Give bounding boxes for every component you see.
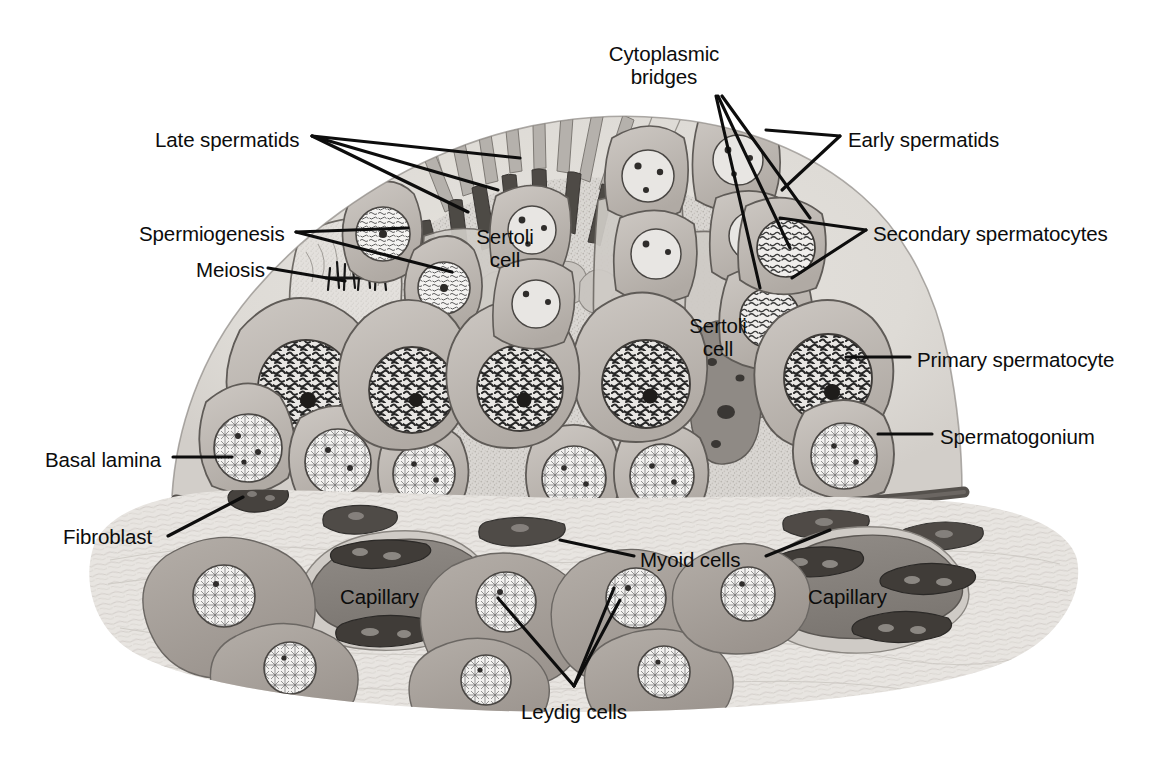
spermatogonium-cell: [199, 383, 294, 493]
seminiferous-tubule: [172, 40, 962, 520]
label-myoid-cells: Myoid cells: [640, 548, 740, 571]
seminiferous-tubule-illustration: [0, 0, 1152, 765]
label-spermatogonium: Spermatogonium: [940, 425, 1095, 448]
leydig-nucleus: [476, 572, 536, 632]
early-spermatid-cell: [605, 126, 688, 221]
label-basal-lamina: Basal lamina: [45, 448, 161, 471]
early-spermatid-cell: [493, 259, 575, 349]
figure-canvas: Late spermatidsCytoplasmic bridgesEarly …: [0, 0, 1152, 765]
leydig-nucleus: [606, 568, 666, 628]
leydig-nucleus: [721, 567, 775, 621]
label-meiosis: Meiosis: [196, 258, 265, 281]
label-capillary-left: Capillary: [340, 585, 419, 608]
primary-spermatocyte-cell: [572, 292, 707, 442]
label-early-spermatids: Early spermatids: [848, 128, 999, 151]
label-sertoli-cell-right: Sertoli cell: [689, 314, 746, 360]
leydig-nucleus: [638, 646, 690, 698]
early-spermatid-cell: [614, 210, 697, 302]
leydig-nucleus: [193, 565, 255, 627]
spermatogonium-cell: [793, 400, 894, 499]
label-fibroblast: Fibroblast: [63, 525, 152, 548]
label-secondary-spermatocytes: Secondary spermatocytes: [873, 222, 1108, 245]
label-late-spermatids: Late spermatids: [155, 128, 299, 151]
label-sertoli-cell-left: Sertoli cell: [476, 225, 533, 271]
leydig-nucleus: [264, 642, 316, 694]
label-capillary-right: Capillary: [808, 585, 887, 608]
leader-early-spermatids-1: [766, 130, 840, 136]
label-primary-spermatocyte: Primary spermatocyte: [917, 348, 1114, 371]
leydig-nucleus: [461, 655, 511, 705]
label-cytoplasmic-bridges: Cytoplasmic bridges: [609, 42, 720, 88]
label-leydig-cells: Leydig cells: [521, 700, 627, 723]
label-spermiogenesis: Spermiogenesis: [139, 222, 285, 245]
